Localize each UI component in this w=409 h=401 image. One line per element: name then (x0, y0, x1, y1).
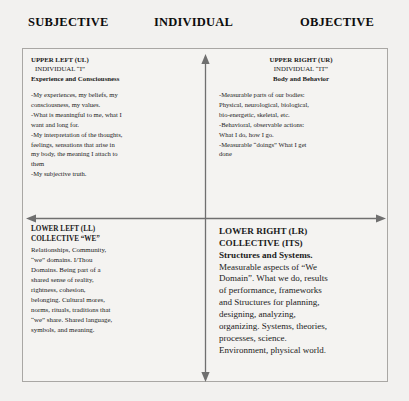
quadrant-lower-left-subtitle: COLLECTIVE “WE” (31, 235, 193, 245)
quadrant-lower-left-body: Relationships, Community, “we” domains. … (31, 245, 193, 336)
quadrant-diagram-frame: UPPER LEFT (UL) INDIVIDUAL “I” Experienc… (22, 48, 388, 382)
quadrant-upper-left-heading: Experience and Consciousness (31, 74, 193, 83)
axis-label-objective: OBJECTIVE (300, 15, 374, 30)
spacer (31, 83, 193, 90)
quadrant-lower-right-subtitle: COLLECTIVE (ITS) (219, 237, 385, 249)
quadrant-lower-right: LOWER RIGHT (LR) COLLECTIVE (ITS) Struct… (219, 225, 385, 357)
top-axis-label-row: SUBJECTIVE INDIVIDUAL OBJECTIVE (0, 0, 409, 46)
spacer (219, 83, 383, 90)
quadrant-upper-left-body: -My experiences, my beliefs, my consciou… (31, 90, 193, 179)
quadrant-lower-right-heading: Structures and Systems. (219, 249, 385, 261)
quadrant-upper-right-body: -Measurable parts of our bodies: Physica… (219, 90, 383, 159)
quadrant-upper-right: UPPER RIGHT (UR) INDIVIDUAL “IT” Body an… (219, 55, 383, 159)
horizontal-axis-arrow-icon (25, 212, 387, 225)
quadrant-upper-left: UPPER LEFT (UL) INDIVIDUAL “I” Experienc… (31, 55, 193, 179)
axis-label-subjective: SUBJECTIVE (28, 15, 109, 30)
quadrant-lower-left: LOWER LEFT (LL) COLLECTIVE “WE” Relation… (31, 225, 193, 335)
quadrant-lower-right-title: LOWER RIGHT (LR) (219, 225, 385, 237)
quadrant-upper-right-subtitle: INDIVIDUAL “IT” (219, 64, 383, 73)
axis-label-individual: INDIVIDUAL (154, 15, 233, 30)
quadrant-lower-left-title: LOWER LEFT (LL) (31, 225, 193, 235)
quadrant-upper-left-title: UPPER LEFT (UL) (31, 55, 193, 64)
quadrant-upper-right-title: UPPER RIGHT (UR) (219, 55, 383, 64)
quadrant-upper-right-heading: Body and Behavior (219, 74, 383, 83)
quadrant-lower-right-body: Measurable aspects of “We Domain”. What … (219, 262, 385, 358)
quadrant-upper-left-subtitle: INDIVIDUAL “I” (31, 64, 193, 73)
